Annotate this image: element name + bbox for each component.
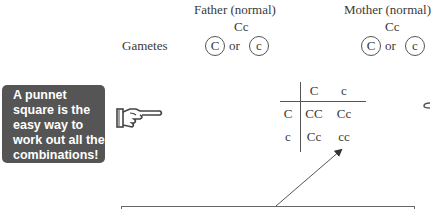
result-box <box>121 206 415 209</box>
arrow-to-cc <box>0 0 439 209</box>
